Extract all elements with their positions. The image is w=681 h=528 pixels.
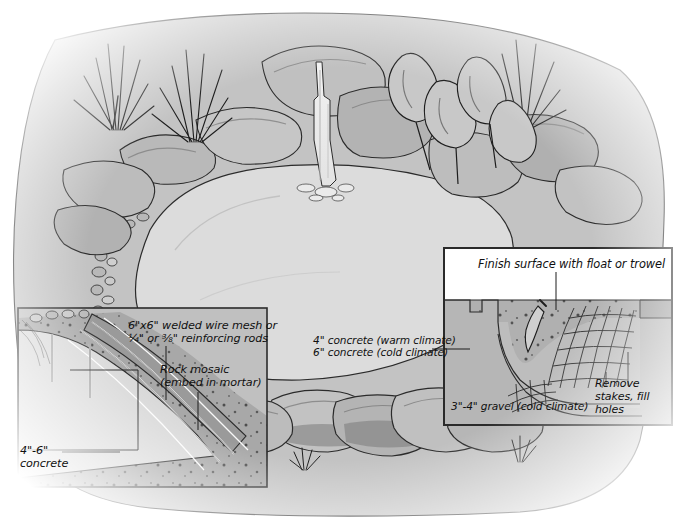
label-wire-mesh: 6"x6" welded wire mesh or ¼" or ⅜" reinf… [128, 319, 277, 345]
label-concrete-thickness-2: concrete [20, 457, 68, 470]
label-finish-surface: Finish surface with float or trowel [478, 258, 665, 271]
pond-construction-illustration: 6"x6" welded wire mesh or ¼" or ⅜" reinf… [0, 0, 681, 528]
label-concrete-cold: 6" concrete (cold climate) [313, 346, 448, 358]
label-concrete-warm: 4" concrete (warm climate) [313, 334, 456, 346]
label-concrete-thickness-1: 4"-6" [20, 444, 48, 457]
label-gravel: 3"-4" gravel (cold climate) [451, 400, 588, 412]
label-remove-stakes: Remove stakes, fill holes [595, 378, 650, 416]
label-rock-mosaic: Rock mosaic (embed in mortar) [160, 363, 261, 389]
